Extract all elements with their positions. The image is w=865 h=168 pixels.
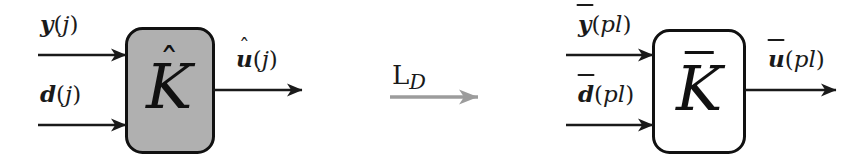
operator-subscript: D xyxy=(409,70,426,94)
right-output-u-open-paren: ( xyxy=(785,46,794,72)
left-input-label-y: y(j) xyxy=(40,12,78,36)
right-input-d-accented: d xyxy=(578,82,594,106)
left-output-label-u: ˆu(j) xyxy=(236,47,278,71)
left-input-d-close-paren: ) xyxy=(72,81,81,107)
right-output-u-argument: pl xyxy=(794,46,816,72)
block-diagram-figure: y(j) d(j) ˆu(j) ˆK LD y(pl) d(pl) u(pl) … xyxy=(0,0,865,168)
left-output-u-close-paren: ) xyxy=(269,46,278,72)
right-input-y-variable: y xyxy=(578,12,591,35)
left-input-d-variable: d xyxy=(40,80,56,107)
left-input-y-open-paren: ( xyxy=(53,11,62,37)
right-block-k-base: K xyxy=(676,52,722,125)
right-input-d-open-paren: ( xyxy=(594,81,603,107)
right-input-d-variable: d xyxy=(578,82,594,105)
right-output-label-ubar: u(pl) xyxy=(768,47,825,71)
left-input-d-open-paren: ( xyxy=(56,81,65,107)
right-input-y-accented: y xyxy=(578,12,591,36)
hat-accent-icon: ˆ xyxy=(160,44,179,82)
left-input-y-argument: j xyxy=(62,11,69,37)
left-output-u-open-paren: ( xyxy=(253,46,262,72)
left-input-y-variable: y xyxy=(40,10,53,37)
right-input-d-argument: pl xyxy=(603,81,625,107)
right-input-y-close-paren: ) xyxy=(622,11,631,37)
left-block-k-accented: ˆK xyxy=(146,56,192,118)
right-input-label-ybar: y(pl) xyxy=(578,12,631,36)
right-input-label-dbar: d(pl) xyxy=(578,82,634,106)
right-input-y-argument: pl xyxy=(600,11,622,37)
right-block-k-accented: K xyxy=(676,58,722,120)
right-block-label: K xyxy=(676,58,722,120)
operator-label: LD xyxy=(392,62,426,92)
right-output-u-close-paren: ) xyxy=(816,46,825,72)
right-output-u-variable: u xyxy=(768,47,785,70)
left-input-y-close-paren: ) xyxy=(70,11,79,37)
right-input-d-close-paren: ) xyxy=(625,81,634,107)
bar-accent-icon xyxy=(685,51,714,54)
left-output-u-argument: j xyxy=(262,46,269,72)
right-input-y-open-paren: ( xyxy=(591,11,600,37)
left-block-label: ˆK xyxy=(146,56,192,118)
operator-blackboard-letter: L xyxy=(392,60,409,90)
diagram-canvas xyxy=(0,0,865,168)
left-output-u-variable: u xyxy=(236,47,253,70)
left-input-label-d: d(j) xyxy=(40,82,81,106)
left-output-u-accented: ˆu xyxy=(236,47,253,71)
right-output-u-accented: u xyxy=(768,47,785,71)
